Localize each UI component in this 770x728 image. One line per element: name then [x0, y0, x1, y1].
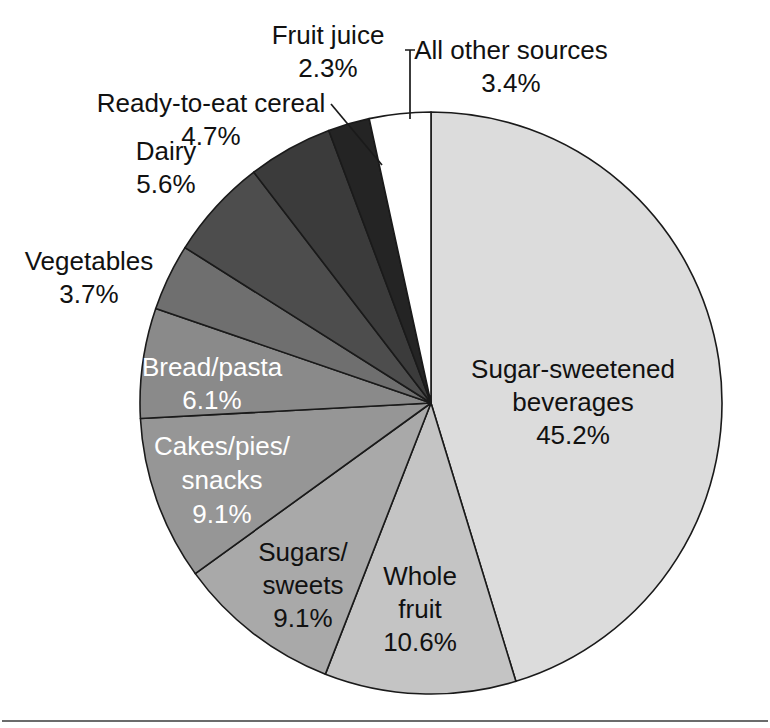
- label-sugar-sweetened-l2: beverages: [512, 387, 633, 417]
- label-sugars-sweets-l2: sweets: [263, 570, 344, 600]
- label-bread-pasta-text: Bread/pasta: [142, 352, 283, 382]
- label-whole-fruit-l1: Whole: [383, 561, 457, 591]
- label-cakes-pies-snacks-l1: Cakes/pies/: [154, 431, 291, 461]
- label-ready-to-eat-cereal-text: Ready-to-eat cereal: [97, 88, 325, 118]
- label-cakes-pies-snacks-pct: 9.1%: [192, 499, 251, 529]
- label-sugars-sweets-l1: Sugars/: [258, 537, 348, 567]
- label-fruit-juice-pct: 2.3%: [298, 53, 357, 83]
- label-fruit-juice-text: Fruit juice: [272, 20, 385, 50]
- label-all-other-sources-text: All other sources: [414, 35, 608, 65]
- label-dairy-pct: 5.6%: [136, 169, 195, 199]
- label-sugar-sweetened-pct: 45.2%: [536, 420, 610, 450]
- label-fruit-juice: Fruit juice 2.3%: [272, 20, 385, 83]
- label-vegetables-text: Vegetables: [25, 246, 154, 276]
- label-all-other-sources-pct: 3.4%: [481, 68, 540, 98]
- label-bread-pasta-pct: 6.1%: [182, 385, 241, 415]
- pie-chart-svg: Fruit juice 2.3% All other sources 3.4% …: [0, 0, 770, 728]
- label-ready-to-eat-cereal: Ready-to-eat cereal 4.7%: [97, 88, 325, 151]
- label-dairy-text: Dairy: [136, 136, 197, 166]
- label-sugar-sweetened-l1: Sugar-sweetened: [471, 354, 675, 384]
- label-dairy: Dairy 5.6%: [136, 136, 197, 199]
- label-vegetables-pct: 3.7%: [59, 279, 118, 309]
- label-all-other-sources: All other sources 3.4%: [414, 35, 608, 98]
- label-vegetables: Vegetables 3.7%: [25, 246, 154, 309]
- label-cakes-pies-snacks-l2: snacks: [182, 465, 263, 495]
- label-sugars-sweets-pct: 9.1%: [273, 603, 332, 633]
- pie-chart-figure: Fruit juice 2.3% All other sources 3.4% …: [0, 0, 770, 728]
- label-whole-fruit-l2: fruit: [398, 594, 442, 624]
- label-whole-fruit-pct: 10.6%: [383, 627, 457, 657]
